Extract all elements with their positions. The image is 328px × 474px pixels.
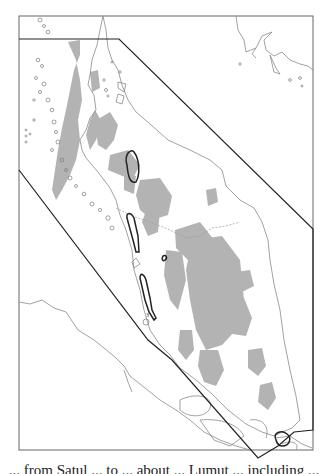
marker-3-label: 3: [146, 312, 149, 318]
figure-caption-partial: ... from Satul ... to ... about ... Lumu…: [0, 459, 328, 474]
peninsula-map: 3: [0, 0, 328, 474]
